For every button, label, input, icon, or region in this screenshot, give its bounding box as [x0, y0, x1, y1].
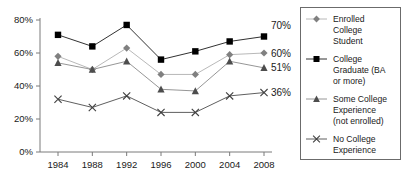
chart-figure: 0%20%40%60%80% 1984198819921996200020042… — [0, 0, 405, 179]
x-tick-label: 2000 — [185, 159, 206, 170]
marker-square — [314, 56, 320, 62]
x-tick-label: 2008 — [253, 159, 274, 170]
marker-diamond — [226, 51, 233, 58]
marker-square — [89, 43, 95, 49]
marker-square — [158, 56, 164, 62]
x-tick-label: 1984 — [47, 159, 68, 170]
legend-label: or more) — [333, 76, 366, 86]
marker-triangle — [123, 57, 130, 64]
y-axis-ticks: 0%20%40%60%80% — [14, 14, 40, 157]
series-end-label: 51% — [271, 62, 291, 73]
marker-diamond — [260, 49, 267, 56]
marker-cross — [54, 96, 61, 103]
series-end-label: 70% — [271, 20, 291, 31]
y-tick-label: 40% — [14, 80, 34, 91]
y-tick-label: 0% — [19, 146, 33, 157]
legend-label: Graduate (BA — [333, 65, 386, 75]
marker-square — [123, 22, 129, 28]
marker-diamond — [192, 71, 199, 78]
series-end-label: 36% — [271, 87, 291, 98]
data-series — [55, 22, 267, 63]
series-end-labels: 60%70%51%36% — [271, 20, 291, 99]
marker-triangle — [54, 59, 61, 66]
marker-cross — [123, 92, 130, 99]
series-line — [58, 93, 264, 113]
legend-label: Experience — [333, 145, 376, 155]
x-tick-label: 1992 — [116, 159, 137, 170]
legend-label: College — [333, 54, 362, 64]
data-series-layer — [54, 22, 267, 116]
x-tick-label: 1996 — [150, 159, 171, 170]
y-tick-label: 60% — [14, 47, 34, 58]
x-tick-label: 1988 — [82, 159, 103, 170]
marker-square — [192, 48, 198, 54]
y-tick-label: 20% — [14, 113, 34, 124]
data-series — [54, 89, 267, 116]
legend-label: Student — [333, 36, 363, 46]
x-tick-label: 2004 — [219, 159, 240, 170]
legend-label: College — [333, 25, 362, 35]
marker-cross — [89, 104, 96, 111]
legend-label: Enrolled — [333, 14, 365, 24]
marker-triangle — [226, 57, 233, 64]
marker-diamond — [54, 53, 61, 60]
line-chart-svg: 0%20%40%60%80% 1984198819921996200020042… — [0, 0, 405, 179]
legend-label: Experience — [333, 105, 376, 115]
marker-square — [226, 38, 232, 44]
marker-square — [55, 32, 61, 38]
x-axis-ticks: 1984198819921996200020042008 — [47, 152, 274, 170]
y-tick-label: 80% — [14, 14, 34, 25]
marker-diamond — [157, 71, 164, 78]
legend-label: (not enrolled) — [333, 116, 384, 126]
marker-square — [261, 33, 267, 39]
legend-label: No College — [333, 134, 376, 144]
marker-diamond — [123, 44, 130, 51]
legend-label: Some College — [333, 94, 387, 104]
series-end-label: 60% — [271, 48, 291, 59]
